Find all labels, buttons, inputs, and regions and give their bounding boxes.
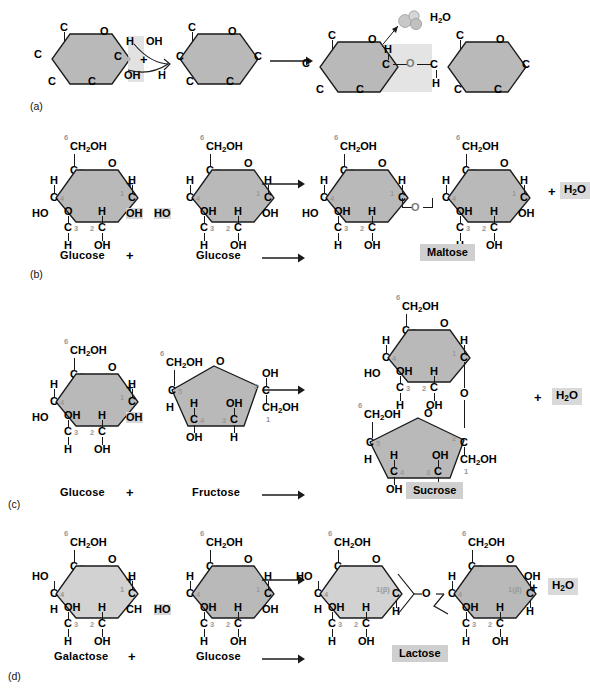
- oh-on-c3: OH: [328, 602, 345, 613]
- oh-below-c2: OH: [358, 636, 375, 647]
- c1-atom: C: [264, 192, 272, 203]
- carbon-number-2: 2: [354, 621, 358, 629]
- ring-oxygen: O: [244, 554, 253, 565]
- panel-b-label: (b): [30, 268, 43, 280]
- panel-c-fructose: 6 CH2OH O C 5 H H C 4 OH OH C 3 H OH C: [150, 350, 310, 450]
- carbon-number-6: 6: [64, 134, 68, 142]
- carbon-number-6: 6: [200, 134, 204, 142]
- c5-atom: C: [168, 385, 176, 396]
- panel-a-curved-arrows: [118, 34, 182, 84]
- panel-a-left-c3: C: [48, 76, 56, 87]
- carbon-number-1: 1: [512, 190, 516, 198]
- panel-b-maltose-right-unit: 6 CH2OH C 5 H O H C 4 OH C 3 H H C 2: [434, 134, 564, 244]
- bond: [332, 40, 333, 50]
- ring-oxygen: O: [108, 554, 117, 565]
- panel-d-bridge-o: O: [422, 588, 431, 599]
- panel-b-water: H2O: [560, 182, 590, 199]
- panel-a-left-c4: C: [34, 49, 42, 60]
- h-below-c1: H: [526, 606, 534, 617]
- carbon-number-6: 6: [456, 134, 460, 142]
- carbon-number-3: 3: [344, 225, 348, 233]
- carbon-number-2: 2: [226, 621, 230, 629]
- panel-b-reactant-1-name: Glucose: [60, 249, 105, 261]
- ch2oh-c6: CH2OH: [70, 345, 107, 359]
- carbon-number-2: 2: [226, 225, 230, 233]
- carbon-number-4: 4: [196, 195, 200, 203]
- h-below-c3: H: [200, 636, 208, 647]
- panel-a-glycosidic-bond: [393, 64, 407, 65]
- oh-on-c3: OH: [456, 206, 473, 217]
- c4-atom: C: [382, 352, 390, 363]
- bond: [436, 70, 437, 78]
- carbon-number-1: 1: [390, 190, 394, 198]
- carbon-number-3: 3: [74, 225, 78, 233]
- oh-on-c1-highlight: OH: [126, 208, 143, 219]
- carbon-number-4: 4: [60, 195, 64, 203]
- ring-oxygen: O: [440, 318, 449, 329]
- ho-on-c4-axial: HO: [32, 571, 49, 582]
- carbon-number-6: 6: [462, 530, 466, 538]
- carbon-number-1: 1: [464, 468, 468, 476]
- carbon-number-3: 3: [426, 469, 430, 477]
- panel-d: 6 CH2OH C 5 H O HO C 4 H OH C 3 H H C 2: [0, 526, 590, 699]
- oh-on-c3: OH: [200, 602, 217, 613]
- panel-b-name-arrow: [262, 252, 306, 264]
- oh-below-c2: OH: [94, 444, 111, 455]
- carbon-number-3: 3: [472, 621, 476, 629]
- ho-on-c4: HO: [32, 412, 49, 423]
- c2-atom: C: [362, 618, 370, 629]
- carbon-number-3: 3: [338, 621, 342, 629]
- panel-b-maltose-left-unit: 6 CH2OH C 5 H O H C 4 HO OH C 3 H H C 2: [312, 134, 442, 244]
- oh-below-c4: OH: [186, 432, 203, 443]
- c3-atom: C: [434, 466, 442, 477]
- oh-on-c3: OH: [200, 206, 217, 217]
- carbon-number-2: 2: [482, 225, 486, 233]
- h-on-c5: H: [364, 454, 372, 465]
- panel-a-product-left-c3: C: [316, 84, 324, 95]
- carbon-number-5: 5: [376, 440, 380, 448]
- panel-a-left-c2: C: [88, 76, 96, 87]
- panel-a: C O C C C C H OH + OH H C C O C C C: [0, 0, 590, 128]
- panel-d-name-arrow: [262, 653, 306, 665]
- panel-c-sucrose-glucose-unit: 6 CH2OH C 5 H O H C 4 HO OH C 3 H H C 2: [374, 294, 504, 404]
- carbon-number-1: 1: [256, 586, 260, 594]
- panel-c-label: (c): [8, 498, 20, 510]
- panel-b: 6 CH2OH C 5 H O H C 4 HO O C 3 H H C 2: [0, 130, 590, 285]
- panel-d-water: H2O: [548, 578, 578, 595]
- panel-b-product-name: Maltose: [420, 244, 475, 261]
- panel-c-reactant-2-name: Fructose: [192, 486, 240, 498]
- ho-on-c4: HO: [302, 208, 319, 219]
- bond: [388, 54, 389, 60]
- carbon-number-6: 6: [64, 530, 68, 538]
- panel-c-plus: +: [126, 380, 134, 395]
- carbon-number-6: 6: [334, 134, 338, 142]
- oh-on-c2: OH: [262, 368, 279, 379]
- panel-b-name-plus: +: [126, 248, 134, 263]
- panel-d-reactant-1-name: Galactose: [54, 650, 108, 662]
- ring-oxygen: O: [378, 158, 387, 169]
- ring-oxygen: O: [372, 554, 381, 565]
- carbon-number-6: 6: [358, 402, 362, 410]
- carbon-number-1: 1: [120, 394, 124, 402]
- panel-c-product-plus: +: [534, 390, 542, 405]
- c1-atom: C: [264, 588, 272, 599]
- ch2oh-c6: CH2OH: [206, 537, 243, 551]
- ho-on-c4-highlight: HO: [154, 208, 171, 219]
- panel-d-label: (d): [8, 670, 21, 682]
- c4-atom: C: [314, 588, 322, 599]
- oh-on-c3: OH: [462, 602, 479, 613]
- carbon-number-2: 2: [360, 225, 364, 233]
- carbon-number-4: 4: [458, 591, 462, 599]
- c1-atom: C: [128, 192, 136, 203]
- anomeric-beta-label: 1(β): [376, 586, 390, 594]
- panel-a-right-c2: C: [186, 76, 194, 87]
- carbon-number-4: 4: [392, 355, 396, 363]
- panel-c-name-arrow: [262, 489, 306, 501]
- figure-disaccharide-synthesis: C O C C C C H OH + OH H C C O C C C: [0, 0, 590, 699]
- anomeric-beta-label: 1(β): [508, 586, 522, 594]
- h-on-c5: H: [166, 402, 174, 413]
- c4-atom: C: [320, 192, 328, 203]
- c5-atom: C: [366, 437, 374, 448]
- ch2oh-c6: CH2OH: [340, 141, 377, 155]
- panel-c-water: H2O: [552, 388, 582, 405]
